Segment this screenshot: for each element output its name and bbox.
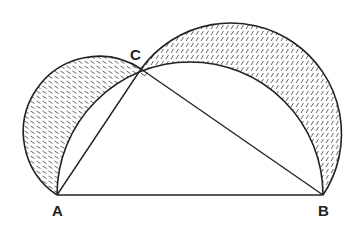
label-b: B <box>318 202 329 219</box>
lune-bc-shading <box>141 23 341 195</box>
label-a: A <box>52 202 63 219</box>
label-c: C <box>130 46 141 63</box>
lune-diagram: C A B <box>0 0 362 228</box>
lune-ac-shading <box>23 56 141 195</box>
